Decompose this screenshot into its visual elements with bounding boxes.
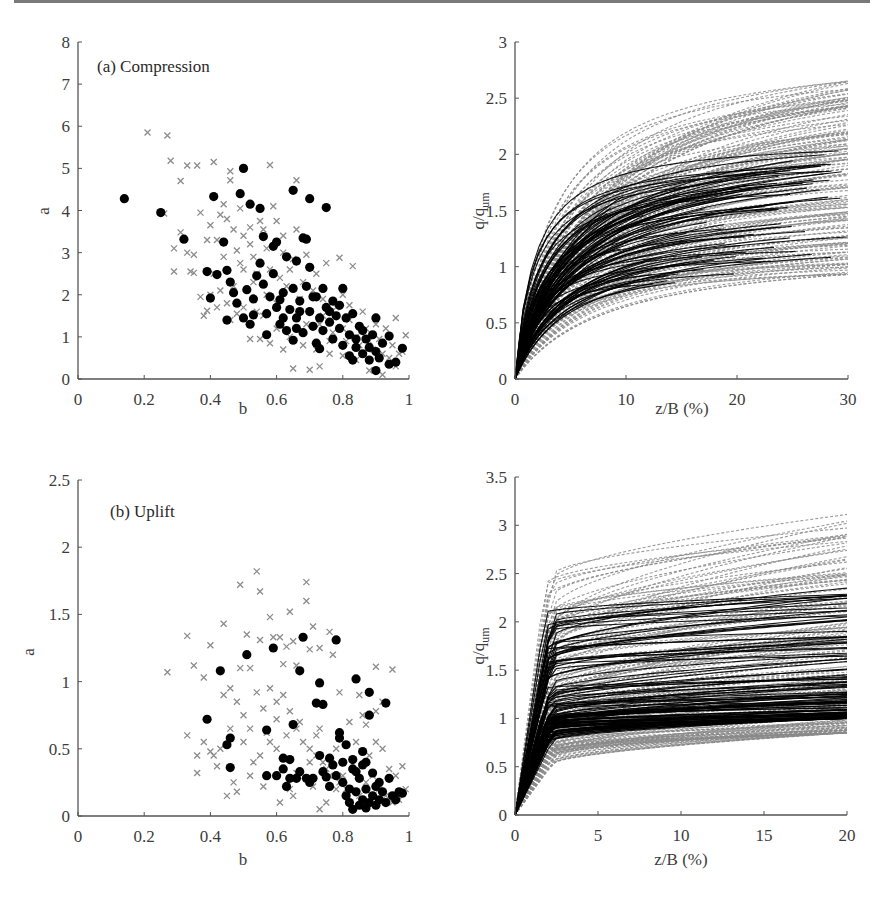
x-tick-label: 0.2 <box>134 390 155 409</box>
y-axis-label: a <box>34 207 53 215</box>
x-tick-label: 0.4 <box>200 827 222 846</box>
x-tick-label: 0.6 <box>266 390 287 409</box>
uplift-scatter-plot-area <box>164 568 408 813</box>
uplift-curves-panel: 0510152000.511.522.533.5 z/B (%) q/qum <box>469 468 856 869</box>
x-axis-label: b <box>239 399 248 418</box>
y-tick-label: 1 <box>499 709 508 728</box>
compression-scatter-plot-area <box>120 130 409 378</box>
y-tick-label: 0 <box>62 370 71 389</box>
y-tick-label: 1 <box>62 328 71 347</box>
y-tick-label: 2.5 <box>486 89 507 108</box>
y-axis-label: a <box>19 648 38 656</box>
x-tick-label: 30 <box>840 390 857 409</box>
x-tick-label: 1 <box>405 390 414 409</box>
x-tick-label: 1 <box>405 827 414 846</box>
y-tick-label: 2.5 <box>49 471 70 490</box>
x-tick-label: 10 <box>673 826 690 845</box>
y-tick-label: 0.5 <box>486 758 507 777</box>
y-tick-label: 2 <box>62 538 71 557</box>
x-tick-label: 0.8 <box>332 390 353 409</box>
x-tick-label: 20 <box>729 390 746 409</box>
svg-text:q/qum: q/qum <box>469 627 492 665</box>
x-tick-label: 20 <box>839 826 856 845</box>
y-tick-label: 0.5 <box>486 314 507 333</box>
y-tick-label: 0.5 <box>49 740 70 759</box>
simulated-curves <box>515 514 847 815</box>
circle-marker-series <box>120 164 407 375</box>
x-axis-label: z/B (%) <box>654 850 707 869</box>
figure: 00.20.40.60.81012345678 (a) Compression … <box>0 0 884 902</box>
y-tick-label: 2 <box>499 613 508 632</box>
y-tick-label: 0 <box>62 807 71 826</box>
y-tick-label: 3 <box>499 33 508 52</box>
x-axis-label: z/B (%) <box>655 399 708 418</box>
uplift-scatter-panel: 00.20.40.60.8100.511.522.5 (b) Uplift b … <box>19 471 413 869</box>
x-tick-label: 0 <box>511 826 520 845</box>
y-tick-label: 6 <box>62 117 71 136</box>
compression-scatter-panel: 00.20.40.60.81012345678 (a) Compression … <box>34 33 413 418</box>
x-tick-label: 10 <box>618 390 635 409</box>
circle-marker-series <box>202 633 406 814</box>
x-tick-label: 5 <box>594 826 603 845</box>
y-axis-label: q/qum <box>469 627 492 665</box>
y-tick-label: 1.5 <box>486 661 507 680</box>
x-tick-label: 0 <box>511 390 520 409</box>
x-tick-label: 0.2 <box>134 827 155 846</box>
y-tick-label: 2 <box>499 145 508 164</box>
y-tick-label: 0 <box>499 370 508 389</box>
x-tick-label: 0 <box>74 390 83 409</box>
compression-curves-plot-area <box>515 81 848 379</box>
x-tick-label: 0.6 <box>266 827 287 846</box>
x-tick-label: 0.4 <box>200 390 222 409</box>
y-tick-label: 1.5 <box>49 605 70 624</box>
compression-curves-panel: 010203000.511.522.53 z/B (%) q/qum <box>469 33 857 418</box>
y-tick-label: 3.5 <box>486 468 507 487</box>
x-tick-label: 15 <box>756 826 773 845</box>
panel-label-compression: (a) Compression <box>97 57 210 76</box>
y-tick-label: 2.5 <box>486 565 507 584</box>
y-tick-label: 0 <box>499 806 508 825</box>
panel-label-uplift: (b) Uplift <box>110 502 175 521</box>
y-tick-label: 3 <box>62 244 71 263</box>
x-axis-label: b <box>239 850 248 869</box>
y-tick-label: 3 <box>499 516 508 535</box>
y-tick-label: 5 <box>62 159 71 178</box>
y-tick-label: 2 <box>62 286 71 305</box>
x-tick-label: 0 <box>74 827 83 846</box>
y-tick-label: 7 <box>62 75 71 94</box>
y-tick-label: 8 <box>62 33 71 52</box>
y-tick-label: 4 <box>62 202 71 221</box>
y-tick-label: 1 <box>62 673 71 692</box>
y-tick-label: 1 <box>499 258 508 277</box>
x-tick-label: 0.8 <box>332 827 353 846</box>
uplift-curves-plot-area <box>515 514 847 815</box>
